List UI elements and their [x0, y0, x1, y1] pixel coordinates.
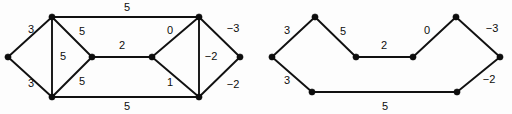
left-graph-edge-L1-L2-weight: 5	[60, 50, 66, 62]
left-graph-edge-L4-L6	[152, 57, 199, 97]
right-graph-vertex-mid-left	[353, 54, 359, 60]
right-graph-edge-R0-R1-weight: 3	[284, 24, 290, 36]
right-graph-edge-R2-R6-weight: 5	[382, 100, 388, 112]
right-graph-vertex-lower-left	[309, 89, 315, 95]
right-graph-edge-R4-R5	[413, 17, 456, 57]
graph-canvas: 3355555201−2−3−233520−3−25	[0, 0, 512, 114]
right-graph-vertex-upper-left	[312, 14, 318, 20]
right-graph-edge-R0-R1	[272, 17, 315, 57]
left-graph-vertex-mid-left	[89, 54, 95, 60]
right-graph-edge-R1-R3	[315, 17, 356, 57]
left-graph-edge-L2-L6-weight: 5	[124, 100, 130, 112]
left-graph-edge-L5-L7-weight: −3	[227, 22, 240, 34]
right-graph-edge-R6-R7-weight: −2	[483, 73, 496, 85]
right-graph-edge-R0-R2	[272, 57, 312, 92]
right-graph-edge-R0-R2-weight: 3	[284, 74, 290, 86]
left-graph-edge-L4-L5	[152, 17, 199, 57]
left-graph-vertex-upper-left	[49, 14, 55, 20]
left-graph-vertex-left-apex	[5, 54, 11, 60]
right-graph-edge-R5-R7-weight: −3	[486, 22, 499, 34]
left-graph-edge-L1-L5-weight: 5	[124, 1, 130, 13]
right-graph-edge-R1-R3-weight: 5	[340, 25, 346, 37]
left-graph-vertex-lower-left	[49, 94, 55, 100]
right-graph-edge-R4-R5-weight: 0	[424, 24, 430, 36]
left-graph-edge-L4-L6-weight: 1	[167, 76, 173, 88]
left-graph-edge-L2-L3-weight: 5	[79, 75, 85, 87]
left-graph-vertex-mid-right	[149, 54, 155, 60]
left-graph-edge-L4-L5-weight: 0	[167, 24, 173, 36]
left-graph-vertex-upper-right	[196, 14, 202, 20]
left-graph-edge-L1-L3-weight: 5	[79, 25, 85, 37]
left-graph-edge-L3-L4-weight: 2	[119, 39, 125, 51]
graph-figure: 3355555201−2−3−233520−3−25	[0, 0, 512, 114]
left-graph-edge-L6-L7-weight: −2	[227, 78, 240, 90]
left-graph-vertex-lower-right	[196, 94, 202, 100]
right-graph-edge-R3-R4-weight: 2	[381, 39, 387, 51]
right-graph-vertex-right-apex	[497, 54, 503, 60]
left-graph-edge-L1-L3	[52, 17, 92, 57]
right-graph-vertex-left-apex	[269, 54, 275, 60]
left-graph-edge-L0-L2-weight: 3	[28, 77, 34, 89]
left-graph-edge-L2-L3	[52, 57, 92, 97]
right-graph-vertex-mid-right	[410, 54, 416, 60]
left-graph-vertex-right-apex	[237, 54, 243, 60]
left-graph-edge-L5-L6-weight: −2	[205, 50, 218, 62]
right-graph-vertex-lower-right	[454, 89, 460, 95]
left-graph-edge-L0-L1-weight: 3	[28, 23, 34, 35]
right-graph-vertex-upper-right	[453, 14, 459, 20]
